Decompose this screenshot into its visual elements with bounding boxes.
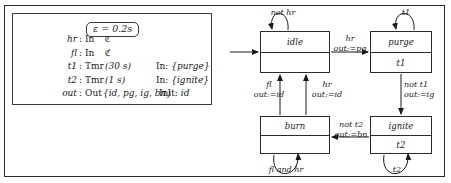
decl-arg: (1 s) xyxy=(105,75,125,85)
state-name: burn xyxy=(261,121,329,131)
guard: t1 xyxy=(402,8,410,17)
label-burn-to-idle-fl: fl out:=id xyxy=(250,80,288,99)
label-purge-self: t1 xyxy=(386,8,426,18)
declaration-row-t2: t2 : Tmr (1 s) In: {ignite} xyxy=(13,75,213,89)
state-ignite-body-compartment: t2 xyxy=(371,136,431,154)
action: out:=bn xyxy=(332,130,370,140)
decl-init-label: Init: xyxy=(159,88,178,98)
decl-kind: Tmr xyxy=(85,61,104,71)
state-purge-body-compartment: t1 xyxy=(371,53,431,73)
state-idle-name-compartment: idle xyxy=(261,32,329,53)
state-body: t2 xyxy=(371,140,431,150)
label-burn-to-idle-hr: hr out:=id xyxy=(308,80,346,99)
label-purge-to-ignite: not t1 out:=ig xyxy=(404,80,444,99)
decl-colon: : xyxy=(79,75,82,85)
decl-name: t1 xyxy=(68,61,77,71)
declaration-list: hr : In ℭ fl : In ℭ t1 : Tmr (30 s) In: … xyxy=(13,34,213,102)
declaration-row-t1: t1 : Tmr (30 s) In: {purge} xyxy=(13,61,213,75)
label-idle-self: not hr xyxy=(262,8,304,18)
decl-scope-label: In: xyxy=(156,61,168,71)
guard: not t2 xyxy=(332,120,370,130)
decl-init-value: id xyxy=(181,88,190,98)
decl-scope-value: {purge} xyxy=(171,61,209,71)
declaration-panel: ε = 0.2s hr : In ℭ fl : In ℭ t1 : Tmr (3… xyxy=(12,13,212,105)
state-machine: idle purge t1 burn ignite xyxy=(228,8,442,176)
guard: hr xyxy=(308,80,346,90)
label-idle-to-purge: hr out:=pg xyxy=(332,34,368,53)
state-idle[interactable]: idle xyxy=(260,31,330,73)
decl-scope-label: In: xyxy=(156,75,168,85)
decl-name: fl xyxy=(71,48,77,58)
declaration-row-fl: fl : In ℭ xyxy=(13,48,213,62)
action: out:=id xyxy=(250,90,288,100)
action: out:=ig xyxy=(404,90,444,100)
decl-colon: : xyxy=(79,61,82,71)
state-idle-body-compartment xyxy=(261,53,329,73)
guard: hr xyxy=(332,34,368,44)
label-ignite-to-burn: not t2 out:=bn xyxy=(332,120,370,139)
epsilon-badge: ε = 0.2s xyxy=(86,22,139,37)
decl-colon: : xyxy=(79,34,82,44)
state-name: purge xyxy=(371,37,431,47)
decl-name: hr xyxy=(67,34,77,44)
state-burn-body-compartment xyxy=(261,136,329,154)
epsilon-value: 0.2s xyxy=(112,23,132,34)
decl-scope: In: {ignite} xyxy=(156,75,209,85)
declaration-row-out: out : Out {id, pg, ig, bn} Init: id xyxy=(13,88,213,102)
guard: fl and hr xyxy=(269,165,303,174)
action: out:=id xyxy=(308,90,346,100)
decl-name: out xyxy=(62,88,77,98)
decl-type: ℭ xyxy=(105,48,111,58)
state-ignite[interactable]: ignite t2 xyxy=(370,116,432,154)
decl-name: t2 xyxy=(68,75,77,85)
guard: not t1 xyxy=(404,80,444,90)
guard: not hr xyxy=(271,8,296,17)
decl-colon: : xyxy=(79,88,82,98)
decl-scope: In: {purge} xyxy=(156,61,210,71)
label-burn-self: fl and hr xyxy=(258,165,314,175)
decl-scope-value: {ignite} xyxy=(171,75,209,85)
state-body: t1 xyxy=(371,58,431,68)
state-ignite-name-compartment: ignite xyxy=(371,117,431,136)
decl-kind: Tmr xyxy=(85,75,104,85)
decl-colon: : xyxy=(79,48,82,58)
decl-init: Init: id xyxy=(159,88,189,98)
epsilon-equals: = xyxy=(101,23,109,34)
state-purge-name-compartment: purge xyxy=(371,32,431,53)
guard: t2 xyxy=(393,165,401,174)
state-purge[interactable]: purge t1 xyxy=(370,31,432,73)
decl-kind: Out xyxy=(85,88,102,98)
decl-kind: In xyxy=(85,48,94,58)
state-name: ignite xyxy=(371,121,431,131)
state-name: idle xyxy=(261,37,329,47)
label-ignite-self: t2 xyxy=(378,165,416,175)
epsilon-symbol: ε xyxy=(93,23,98,34)
state-burn-name-compartment: burn xyxy=(261,117,329,136)
decl-arg: (30 s) xyxy=(105,61,131,71)
action: out:=pg xyxy=(332,44,368,54)
figure-root: ε = 0.2s hr : In ℭ fl : In ℭ t1 : Tmr (3… xyxy=(0,0,451,183)
guard: fl xyxy=(250,80,288,90)
state-burn[interactable]: burn xyxy=(260,116,330,154)
